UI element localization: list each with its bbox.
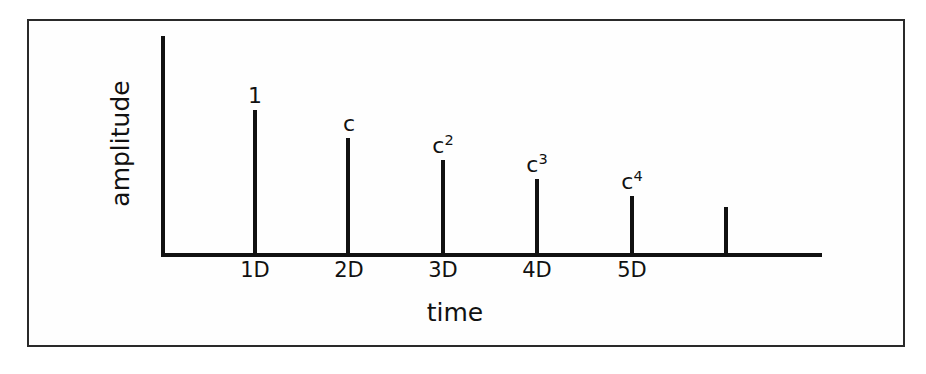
- impulse-label-5d-text: c: [621, 169, 633, 194]
- figure-canvas: 1 c c2 c3 c4 1D 2D 3D 4D 5D amplitude ti…: [0, 0, 926, 374]
- impulse-label-3d-exponent: 2: [444, 132, 453, 148]
- impulse-label-2d: c: [343, 113, 355, 135]
- plot-area: 1 c c2 c3 c4 1D 2D 3D 4D 5D amplitude ti…: [0, 0, 926, 374]
- impulse-label-4d-text: c: [526, 152, 538, 177]
- impulse-label-4d: c3: [526, 154, 547, 176]
- impulse-spike-2d: [346, 138, 350, 255]
- impulse-spike-4d: [535, 179, 539, 255]
- impulse-spike-5d: [630, 196, 634, 255]
- impulse-label-4d-exponent: 3: [538, 151, 547, 167]
- x-tick-label-4d: 4D: [522, 260, 552, 281]
- impulse-label-1d-text: 1: [248, 83, 262, 108]
- x-axis-line: [161, 253, 822, 257]
- impulse-label-2d-text: c: [343, 111, 355, 136]
- x-tick-label-2d: 2D: [334, 260, 364, 281]
- x-axis-title: time: [427, 300, 483, 325]
- impulse-label-5d-exponent: 4: [633, 168, 642, 184]
- y-axis-line: [161, 36, 165, 257]
- x-tick-label-3d: 3D: [428, 260, 458, 281]
- impulse-label-3d-text: c: [432, 133, 444, 158]
- impulse-spike-1d: [253, 110, 257, 255]
- impulse-label-3d: c2: [432, 135, 453, 157]
- y-axis-title: amplitude: [108, 71, 133, 217]
- x-tick-label-5d: 5D: [617, 260, 647, 281]
- impulse-label-1d: 1: [248, 85, 262, 107]
- impulse-label-5d: c4: [621, 171, 642, 193]
- impulse-spike-6d: [724, 207, 728, 255]
- x-tick-label-1d: 1D: [240, 260, 270, 281]
- impulse-spike-3d: [441, 160, 445, 255]
